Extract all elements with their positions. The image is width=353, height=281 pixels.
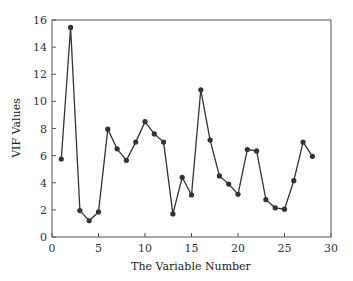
data-point — [87, 218, 92, 223]
x-tick-label: 25 — [278, 242, 292, 255]
plot-frame — [52, 20, 331, 237]
data-point — [291, 178, 296, 183]
y-axis: 0246810121416 — [33, 14, 56, 244]
y-tick-label: 6 — [40, 150, 47, 163]
data-point — [170, 211, 175, 216]
y-tick-label: 16 — [33, 14, 47, 27]
vif-line-chart: 0246810121416 051015202530 The Variable … — [0, 0, 353, 281]
x-axis-label: The Variable Number — [131, 260, 252, 273]
y-tick-label: 0 — [40, 231, 47, 244]
x-tick-label: 0 — [49, 242, 56, 255]
data-point — [282, 207, 287, 212]
x-tick-label: 30 — [324, 242, 338, 255]
data-point — [217, 173, 222, 178]
data-point — [263, 197, 268, 202]
y-tick-label: 14 — [33, 41, 47, 54]
data-point — [254, 148, 259, 153]
data-point — [189, 192, 194, 197]
data-point — [226, 182, 231, 187]
x-tick-label: 15 — [185, 242, 199, 255]
y-tick-label: 8 — [40, 123, 47, 136]
y-tick-label: 4 — [40, 177, 47, 190]
data-point — [161, 139, 166, 144]
y-axis-label: VIF Values — [10, 98, 23, 159]
data-point — [77, 208, 82, 213]
data-point — [180, 175, 185, 180]
data-point — [301, 139, 306, 144]
data-point — [124, 158, 129, 163]
x-tick-label: 5 — [95, 242, 102, 255]
data-point — [152, 131, 157, 136]
x-axis: 051015202530 — [49, 233, 339, 255]
data-point — [59, 156, 64, 161]
data-point — [198, 87, 203, 92]
data-point — [68, 25, 73, 30]
x-tick-label: 10 — [138, 242, 152, 255]
y-tick-label: 10 — [33, 95, 47, 108]
data-point — [245, 147, 250, 152]
x-tick-label: 20 — [231, 242, 245, 255]
data-point — [96, 209, 101, 214]
series-line — [61, 28, 312, 221]
data-point — [115, 146, 120, 151]
y-tick-label: 12 — [33, 68, 47, 81]
data-point — [310, 154, 315, 159]
data-point — [208, 137, 213, 142]
data-point — [235, 192, 240, 197]
series-markers — [59, 25, 315, 223]
data-point — [105, 127, 110, 132]
y-tick-label: 2 — [40, 204, 47, 217]
data-point — [273, 205, 278, 210]
data-point — [133, 139, 138, 144]
data-point — [142, 119, 147, 124]
